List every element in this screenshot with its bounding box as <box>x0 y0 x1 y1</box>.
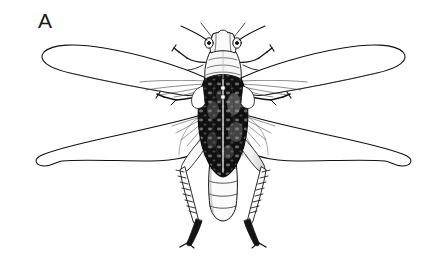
antenna-left <box>181 26 207 40</box>
hindwing-left <box>36 113 210 166</box>
insect-illustration <box>0 0 446 265</box>
illustration-layer <box>36 23 411 248</box>
thorax-spot-upper <box>221 86 226 91</box>
thorax-spot-lower <box>221 95 226 100</box>
head <box>181 23 265 53</box>
forewing-right <box>240 45 405 97</box>
antenna-right <box>239 26 265 40</box>
forewing-bases-overlay <box>192 74 255 178</box>
hindwing-right <box>237 113 411 166</box>
forewing-left <box>42 45 207 97</box>
figure-panel: A <box>0 0 446 265</box>
pronotum <box>205 49 242 79</box>
